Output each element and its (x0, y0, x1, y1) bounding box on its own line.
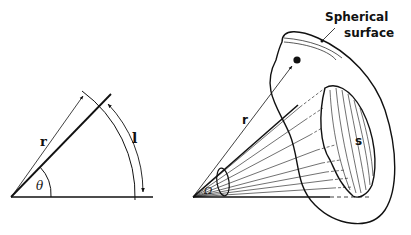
solid-angle-diagram: r Ω s Spherical surface (193, 10, 395, 224)
surface-highlight (284, 38, 342, 58)
surface-point (293, 56, 300, 63)
radius-label: r (40, 134, 47, 149)
theta-label: θ (36, 179, 44, 193)
radius-arc (82, 91, 135, 200)
arc-length-label: l (132, 130, 137, 146)
spherical-surface-outline (270, 32, 395, 224)
radius-label: r (242, 113, 248, 127)
solid-angle-rays-hidden (300, 88, 353, 188)
radius-arrow (193, 66, 292, 197)
solid-angle-label: Ω (203, 185, 212, 196)
leader-dot (321, 40, 324, 43)
spherical-surface-label-line2: surface (344, 26, 394, 40)
spherical-surface-label-line1: Spherical (325, 10, 388, 24)
surface-highlight (284, 42, 336, 60)
surface-area-hatching (330, 88, 373, 193)
solid-angle-rays (193, 107, 333, 197)
angle-ray (11, 94, 111, 197)
plane-angle-diagram: r θ l (11, 91, 153, 200)
angle-diagram-figure: r θ l (0, 0, 411, 235)
radius-dimension-arrow (12, 96, 83, 196)
surface-leader-line (322, 28, 335, 41)
surface-area-label: s (355, 134, 362, 148)
